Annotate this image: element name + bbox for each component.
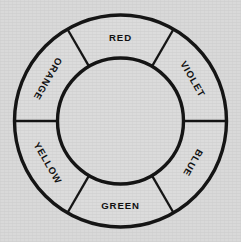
color-wheel-diagram: REDVIOLETBLUEGREENYELLOWORANGE [0,0,241,242]
segment-label-red: RED [109,32,132,43]
color-wheel-figure: REDVIOLETBLUEGREENYELLOWORANGE [0,0,241,242]
segment-label-green: GREEN [101,200,140,211]
